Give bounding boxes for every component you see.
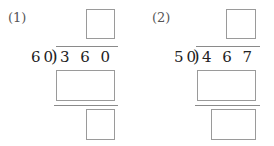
product-box[interactable] [197,70,256,101]
division-bar [196,46,260,47]
quotient-box[interactable] [226,9,256,39]
product-box[interactable] [56,70,115,101]
quotient-box[interactable] [86,9,115,39]
dividend: 4 6 7 [202,49,255,65]
subtraction-line [195,105,260,106]
division-bar [56,46,118,47]
division-bracket: ) [51,47,58,65]
problem-label: (2) [152,10,170,25]
problem-label: (1) [8,10,26,25]
division-bracket: ) [193,47,200,65]
remainder-box[interactable] [86,109,115,140]
dividend: 3 6 0 [60,49,113,65]
subtraction-line [54,105,118,106]
remainder-box[interactable] [211,109,256,140]
